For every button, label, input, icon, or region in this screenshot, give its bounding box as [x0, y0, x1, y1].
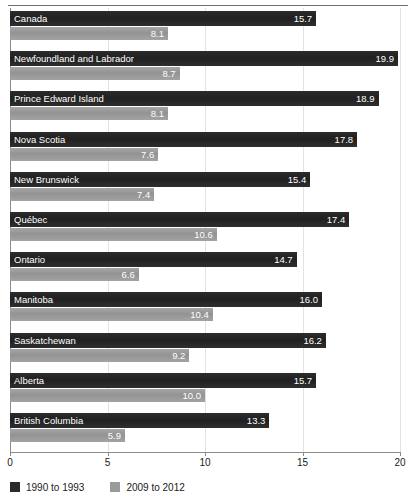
bar-group: Canada15.78.1: [0, 11, 414, 41]
bar-1990-to-1993[interactable]: [10, 11, 316, 26]
bar-2009-to-2012[interactable]: [10, 228, 217, 241]
x-tick-20: [400, 452, 401, 456]
bar-2009-to-2012[interactable]: [10, 268, 139, 281]
bar-1990-to-1993[interactable]: [10, 252, 297, 267]
legend-item[interactable]: 2009 to 2012: [110, 482, 184, 493]
bar-group: Nova Scotia17.87.6: [0, 132, 414, 162]
x-tick-0: [10, 452, 11, 456]
bar-1990-to-1993[interactable]: [10, 292, 322, 307]
legend-swatch-icon: [10, 482, 20, 492]
bar-1990-to-1993[interactable]: [10, 373, 316, 388]
bar-group: Québec17.410.6: [0, 212, 414, 242]
bar-2009-to-2012[interactable]: [10, 389, 205, 402]
bar-group: Alberta15.710.0: [0, 373, 414, 403]
bar-1990-to-1993[interactable]: [10, 51, 398, 66]
x-tick-10: [205, 452, 206, 456]
bar-2009-to-2012[interactable]: [10, 107, 168, 120]
bar-chart: Canada15.78.1Newfoundland and Labrador19…: [0, 0, 414, 500]
legend-label: 2009 to 2012: [126, 482, 184, 493]
chart-title: [0, 0, 414, 2]
bar-2009-to-2012[interactable]: [10, 308, 213, 321]
x-tick-label-5: 5: [105, 457, 111, 468]
bar-1990-to-1993[interactable]: [10, 413, 269, 428]
bar-2009-to-2012[interactable]: [10, 429, 125, 442]
plot-area: Canada15.78.1Newfoundland and Labrador19…: [0, 8, 414, 452]
bar-1990-to-1993[interactable]: [10, 172, 310, 187]
bar-2009-to-2012[interactable]: [10, 349, 189, 362]
bar-group: Ontario14.76.6: [0, 252, 414, 282]
bar-1990-to-1993[interactable]: [10, 333, 326, 348]
legend-label: 1990 to 1993: [26, 482, 84, 493]
bar-group: Newfoundland and Labrador19.98.7: [0, 51, 414, 81]
legend-swatch-icon: [110, 482, 120, 492]
bar-group: Saskatchewan16.29.2: [0, 333, 414, 363]
bar-2009-to-2012[interactable]: [10, 27, 168, 40]
bar-group: Prince Edward Island18.98.1: [0, 91, 414, 121]
bar-2009-to-2012[interactable]: [10, 148, 158, 161]
x-tick-label-20: 20: [394, 457, 405, 468]
bar-1990-to-1993[interactable]: [10, 212, 349, 227]
bar-2009-to-2012[interactable]: [10, 188, 154, 201]
x-tick-15: [303, 452, 304, 456]
bar-group: Manitoba16.010.4: [0, 292, 414, 322]
top-divider: [8, 5, 408, 6]
bar-group: New Brunswick15.47.4: [0, 172, 414, 202]
x-axis: 05101520: [0, 452, 414, 476]
bar-group: British Columbia13.35.9: [0, 413, 414, 443]
x-tick-5: [108, 452, 109, 456]
x-tick-label-15: 15: [297, 457, 308, 468]
x-tick-label-10: 10: [199, 457, 210, 468]
chart-legend: 1990 to 19932009 to 2012: [10, 479, 211, 495]
x-tick-label-0: 0: [7, 457, 13, 468]
bar-1990-to-1993[interactable]: [10, 91, 379, 106]
bar-1990-to-1993[interactable]: [10, 132, 357, 147]
legend-item[interactable]: 1990 to 1993: [10, 482, 84, 493]
bar-2009-to-2012[interactable]: [10, 67, 180, 80]
